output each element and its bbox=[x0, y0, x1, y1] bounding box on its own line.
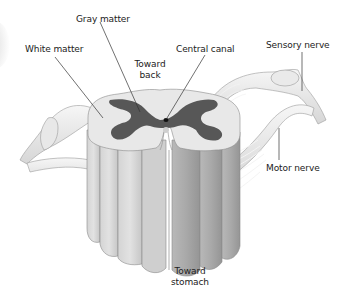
label-white-matter: White matter bbox=[25, 44, 83, 55]
label-toward-back: Toward back bbox=[132, 59, 168, 81]
spinal-cord-body bbox=[87, 130, 240, 276]
label-central-canal: Central canal bbox=[176, 44, 235, 55]
label-toward-stomach: Toward stomach bbox=[168, 266, 212, 288]
label-sensory-nerve: Sensory nerve bbox=[266, 40, 330, 51]
left-sensory-nerve bbox=[20, 105, 96, 164]
edge-fragment bbox=[0, 21, 10, 69]
label-gray-matter: Gray matter bbox=[76, 14, 130, 25]
label-motor-nerve: Motor nerve bbox=[266, 163, 320, 174]
central-canal-dot bbox=[164, 118, 169, 122]
spinal-cord-diagram: Gray matter White matter Toward back Cen… bbox=[0, 0, 339, 295]
